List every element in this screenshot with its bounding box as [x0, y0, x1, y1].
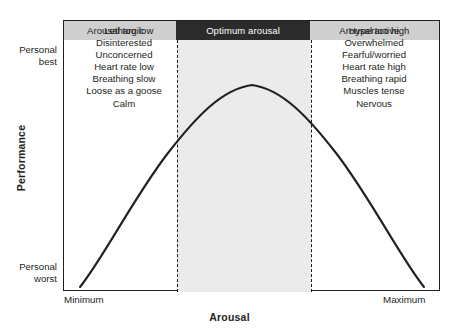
list-item: Heart rate low: [70, 61, 178, 73]
y-axis-label-personal-worst: Personal worst: [3, 261, 57, 284]
x-axis-label-maximum: Maximum: [383, 294, 425, 305]
arousal-performance-chart: Performance Personal best Personal worst…: [0, 0, 459, 331]
x-axis-label-minimum: Minimum: [64, 294, 104, 305]
performance-curve-path: [80, 85, 424, 287]
list-item: Breathing rapid: [312, 73, 436, 85]
list-item: Lethargic: [70, 25, 178, 37]
list-item: Muscles tense: [312, 85, 436, 97]
list-item: Loose as a goose: [70, 85, 178, 97]
y-axis-label-personal-worst-line1: Personal: [3, 261, 57, 273]
list-item: Unconcerned: [70, 49, 178, 61]
y-axis-label-personal-best: Personal best: [3, 44, 57, 67]
list-item: Overwhelmed: [312, 37, 436, 49]
list-item: Heart rate high: [312, 61, 436, 73]
list-item: Disinterested: [70, 37, 178, 49]
y-axis-label-personal-worst-line2: worst: [3, 273, 57, 285]
descriptor-list-arousal-too-low: Lethargic Disinterested Unconcerned Hear…: [70, 25, 178, 110]
list-item: Nervous: [312, 98, 436, 110]
list-item: Breathing slow: [70, 73, 178, 85]
list-item: Hyperactive: [312, 25, 436, 37]
y-axis-label-personal-best-line2: best: [3, 56, 57, 68]
y-axis-label-personal-best-line1: Personal: [3, 44, 57, 56]
list-item: Fearful/worried: [312, 49, 436, 61]
x-axis-title: Arousal: [0, 311, 459, 323]
descriptor-list-arousal-too-high: Hyperactive Overwhelmed Fearful/worried …: [312, 25, 436, 110]
y-axis-title: Performance: [15, 113, 27, 203]
list-item: Calm: [70, 98, 178, 110]
